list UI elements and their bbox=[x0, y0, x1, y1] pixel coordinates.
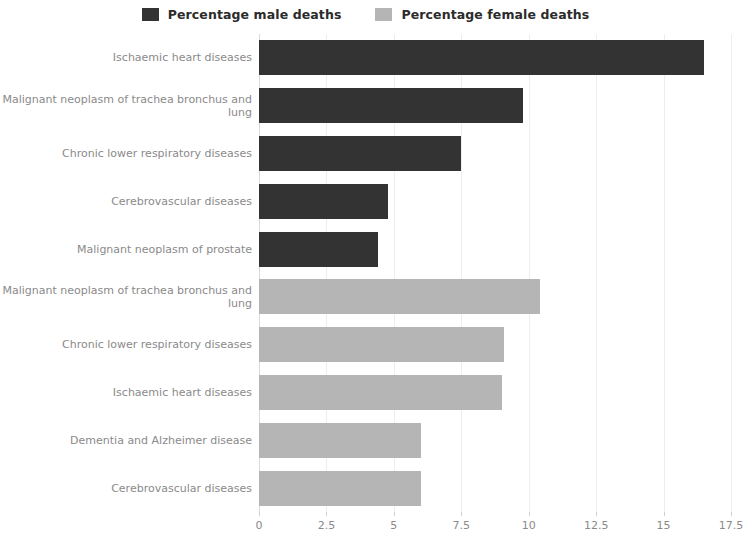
gridline bbox=[731, 34, 732, 512]
x-tick-label: 5 bbox=[390, 519, 397, 532]
x-tick-mark bbox=[529, 512, 530, 516]
x-tick-mark bbox=[259, 512, 260, 516]
bar-row bbox=[259, 327, 731, 362]
x-tick-mark bbox=[596, 512, 597, 516]
x-tick-mark bbox=[394, 512, 395, 516]
x-tick-mark bbox=[461, 512, 462, 516]
category-label: Chronic lower respiratory diseases bbox=[0, 147, 252, 160]
category-label: Malignant neoplasm of prostate bbox=[0, 243, 252, 256]
bar-row bbox=[259, 375, 731, 410]
bar[interactable] bbox=[259, 136, 461, 171]
x-tick-label: 15 bbox=[657, 519, 671, 532]
bar-row bbox=[259, 88, 731, 123]
bar[interactable] bbox=[259, 184, 388, 219]
bar-row bbox=[259, 136, 731, 171]
bar[interactable] bbox=[259, 232, 378, 267]
x-tick-label: 17.5 bbox=[719, 519, 743, 532]
category-label: Ischaemic heart diseases bbox=[0, 386, 252, 399]
legend-label: Percentage female deaths bbox=[401, 7, 589, 22]
bar[interactable] bbox=[259, 88, 523, 123]
x-tick-label: 7.5 bbox=[453, 519, 471, 532]
bar[interactable] bbox=[259, 279, 540, 314]
category-label: Cerebrovascular diseases bbox=[0, 482, 252, 495]
bar-row bbox=[259, 232, 731, 267]
bar[interactable] bbox=[259, 423, 421, 458]
plot-area bbox=[259, 34, 731, 512]
category-label: Cerebrovascular diseases bbox=[0, 195, 252, 208]
category-label: Malignant neoplasm of trachea bronchus a… bbox=[0, 284, 252, 310]
category-label: Dementia and Alzheimer disease bbox=[0, 434, 252, 447]
bar-row bbox=[259, 471, 731, 506]
x-tick-label: 12.5 bbox=[584, 519, 609, 532]
bar[interactable] bbox=[259, 327, 504, 362]
bar-row bbox=[259, 423, 731, 458]
x-tick-label: 0 bbox=[256, 519, 263, 532]
bar[interactable] bbox=[259, 375, 502, 410]
x-tick-mark bbox=[664, 512, 665, 516]
bar-row bbox=[259, 279, 731, 314]
bar[interactable] bbox=[259, 40, 704, 75]
category-label: Chronic lower respiratory diseases bbox=[0, 338, 252, 351]
bar[interactable] bbox=[259, 471, 421, 506]
x-tick-mark bbox=[326, 512, 327, 516]
legend-entry[interactable]: Percentage male deaths bbox=[142, 7, 342, 22]
category-label: Malignant neoplasm of trachea bronchus a… bbox=[0, 93, 252, 119]
category-label: Ischaemic heart diseases bbox=[0, 51, 252, 64]
legend-label: Percentage male deaths bbox=[168, 7, 342, 22]
x-tick-mark bbox=[731, 512, 732, 516]
bar-row bbox=[259, 40, 731, 75]
chart-legend: Percentage male deathsPercentage female … bbox=[0, 2, 731, 26]
x-tick-label: 10 bbox=[522, 519, 536, 532]
legend-swatch-male bbox=[142, 8, 159, 21]
legend-entry[interactable]: Percentage female deaths bbox=[375, 7, 589, 22]
bar-row bbox=[259, 184, 731, 219]
x-tick-label: 2.5 bbox=[318, 519, 336, 532]
legend-swatch-female bbox=[375, 8, 392, 21]
